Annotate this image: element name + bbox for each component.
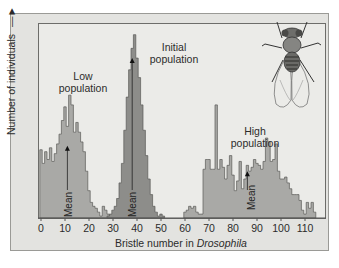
mean-label-low: Mean — [63, 192, 74, 217]
initial-population-label: Initialpopulation — [146, 41, 202, 65]
x-tick-label: 60 — [173, 222, 197, 234]
x-tick-label: 50 — [149, 222, 173, 234]
x-tick-label: 110 — [293, 222, 317, 234]
low-population-label: Lowpopulation — [58, 70, 108, 94]
x-tick-label: 90 — [245, 222, 269, 234]
x-tick-label: 70 — [197, 222, 221, 234]
mean-label-high: Mean — [246, 185, 257, 210]
x-tick-label: 10 — [53, 222, 77, 234]
x-tick-label: 80 — [221, 222, 245, 234]
x-tick-label: 100 — [269, 222, 293, 234]
high-population-label: Highpopulation — [227, 125, 283, 149]
y-axis-label: Number of individuals —► — [5, 6, 17, 135]
x-tick-label: 20 — [77, 222, 101, 234]
x-tick-label: 0 — [29, 222, 53, 234]
x-tick-label: 40 — [125, 222, 149, 234]
x-axis-label: Bristle number in Drosophila — [115, 237, 247, 249]
histogram-low-population — [40, 95, 112, 218]
x-tick-label: 30 — [101, 222, 125, 234]
mean-label-initial: Mean — [127, 192, 138, 217]
